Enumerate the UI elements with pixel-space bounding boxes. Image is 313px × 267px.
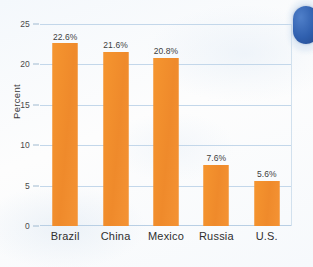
bar-value-mexico: 20.8%: [154, 46, 179, 56]
y-tick-dash-15: [33, 104, 39, 105]
bar-group-brazil: 22.6%: [40, 24, 90, 226]
y-tick-dash-10: [33, 145, 39, 146]
bar-mexico[interactable]: [153, 58, 178, 226]
bar-group-us: 5.6%: [242, 24, 292, 226]
bar-value-china: 21.6%: [103, 40, 128, 50]
bar-series: 22.6% 21.6% 20.8% 7.6% 5.6%: [40, 24, 292, 226]
y-tick-label-15: 15: [4, 100, 30, 110]
bar-value-us: 5.6%: [257, 169, 277, 179]
y-tick-dash-20: [33, 64, 39, 65]
y-tick-label-0: 0: [4, 221, 30, 231]
y-tick-label-5: 5: [4, 181, 30, 191]
bar-us[interactable]: [254, 181, 279, 226]
bar-value-russia: 7.6%: [206, 153, 226, 163]
bar-group-russia: 7.6%: [191, 24, 241, 226]
x-axis-labels: Brazil China Mexico Russia U.S.: [40, 230, 292, 252]
y-tick-label-20: 20: [4, 59, 30, 69]
bar-group-china: 21.6%: [90, 24, 140, 226]
bar-group-mexico: 20.8%: [141, 24, 191, 226]
y-tick-dash-5: [33, 185, 39, 186]
x-label-russia: Russia: [191, 230, 241, 242]
x-label-mexico: Mexico: [141, 230, 191, 242]
y-tick-label-10: 10: [4, 140, 30, 150]
bar-russia[interactable]: [204, 165, 229, 226]
plot-area: 22.6% 21.6% 20.8% 7.6% 5.6%: [40, 24, 292, 226]
bar-value-brazil: 22.6%: [53, 32, 78, 42]
x-label-brazil: Brazil: [40, 230, 90, 242]
x-label-us: U.S.: [242, 230, 292, 242]
bar-china[interactable]: [103, 52, 128, 227]
bar-chart-figure: Percent 25 20 15 10 5 0 22.6%: [0, 0, 313, 267]
corner-tab-decoration: [293, 6, 313, 44]
bar-brazil[interactable]: [53, 43, 78, 226]
y-tick-label-25: 25: [4, 19, 30, 29]
y-tick-dash-0: [33, 226, 39, 227]
y-tick-dash-25: [33, 24, 39, 25]
x-label-china: China: [90, 230, 140, 242]
